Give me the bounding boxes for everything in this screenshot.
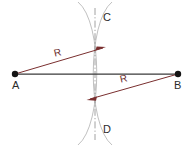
point-label-c: C (103, 12, 111, 23)
figure-canvas (0, 0, 193, 147)
radius-ray-b (87, 74, 179, 101)
radius-arrowhead-a (96, 47, 107, 51)
radius-line-b (90, 74, 178, 99)
point-a-dot (12, 71, 18, 77)
geometry-figure: A B C D R R (0, 0, 193, 147)
point-label-b: B (174, 80, 181, 91)
point-label-d: D (103, 124, 111, 135)
point-b-dot (175, 71, 181, 77)
radius-arrowhead-b (87, 97, 98, 101)
point-label-a: A (12, 80, 19, 91)
